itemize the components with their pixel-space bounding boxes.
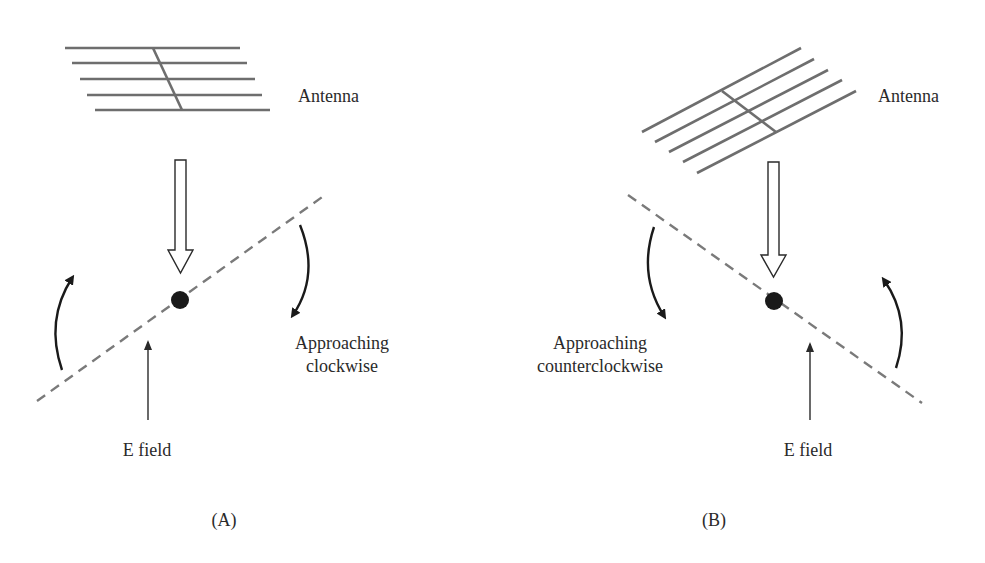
rotation-arrow-a-left-icon xyxy=(55,278,72,370)
rotation-arrow-b-left-icon xyxy=(648,227,664,316)
propagation-arrow-a-icon xyxy=(168,160,193,273)
polarization-diagram: Antenna Approaching clockwise E field (A… xyxy=(0,0,985,563)
antenna-b-icon xyxy=(642,48,856,173)
panel-a: Antenna Approaching clockwise E field (A… xyxy=(37,48,389,531)
rotation-label-b-line2: counterclockwise xyxy=(537,356,663,376)
e-field-label-b: E field xyxy=(784,440,832,460)
rotation-arrow-b-right-icon xyxy=(884,280,902,368)
rotation-arrow-a-right-icon xyxy=(293,225,309,315)
caption-b: (B) xyxy=(702,510,726,531)
antenna-a-icon xyxy=(65,48,270,110)
rotation-label-b-line1: Approaching xyxy=(553,333,647,353)
antenna-a-label: Antenna xyxy=(298,86,359,106)
caption-a: (A) xyxy=(212,510,237,531)
antenna-b-label: Antenna xyxy=(878,86,939,106)
panel-b: Antenna Approaching counterclockwise E f… xyxy=(537,48,939,531)
rotation-label-a-line1: Approaching xyxy=(295,333,389,353)
e-field-label-a: E field xyxy=(123,440,171,460)
propagation-arrow-b-icon xyxy=(761,162,786,277)
rotation-label-a-line2: clockwise xyxy=(306,356,378,376)
charge-dot-a-icon xyxy=(171,291,189,309)
charge-dot-b-icon xyxy=(765,292,783,310)
